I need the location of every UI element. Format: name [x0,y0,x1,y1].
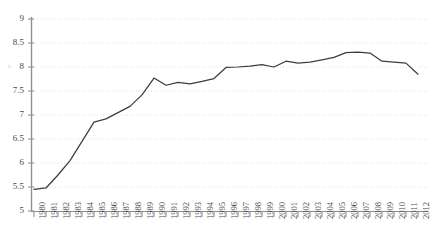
x-tick-label: 2010 [398,202,407,219]
x-tick-label: 1981 [50,202,59,219]
y-tick-label: 9 [0,14,24,23]
x-tick-label: 1998 [254,202,263,219]
x-tick-label: 1986 [110,202,119,219]
x-tick-label: 1980 [38,202,47,219]
x-tick-label: 1993 [194,202,203,219]
x-tick-label: 1992 [182,202,191,219]
x-tick-label: 1999 [266,202,275,219]
x-tick-label: 1996 [230,202,239,219]
x-tick-label: 2009 [386,202,395,219]
x-tick-label: 2001 [290,202,299,219]
gridlines [34,19,428,211]
x-tick-label: 1985 [98,202,107,219]
line-chart: 98.587.576.565.55 1980198119821983198419… [0,0,437,250]
x-tick-label: 1988 [134,202,143,219]
x-tick-label: 2002 [302,202,311,219]
x-tick-label: 2011 [410,202,419,219]
y-tick-label: 6 [0,158,24,167]
x-tick-label: 1983 [74,202,83,219]
x-tick-label: 1994 [206,202,215,219]
x-tick-label: 2006 [350,202,359,219]
y-tick-label: 6.5 [0,134,24,143]
x-tick-label: 1990 [158,202,167,219]
x-tick-label: 1991 [170,202,179,219]
x-tick-label: 1997 [242,202,251,219]
x-tick-label: 2004 [326,202,335,219]
x-tick-label: 2000 [278,202,287,219]
data-line-series-1 [34,52,418,189]
y-tick-label: 5 [0,206,24,215]
y-tick-label: 7.5 [0,86,24,95]
x-tick-label: 2012 [422,202,431,219]
x-tick-label: 2005 [338,202,347,219]
x-tick-label: 1989 [146,202,155,219]
x-tick-label: 1987 [122,202,131,219]
x-tick-label: 1982 [62,202,71,219]
y-tick-label: 5.5 [0,182,24,191]
x-tick-label: 2007 [362,202,371,219]
x-tick-label: 1984 [86,202,95,219]
x-tick-label: 2003 [314,202,323,219]
x-tick-label: 2008 [374,202,383,219]
x-tick-label: 1995 [218,202,227,219]
y-tick-label: 7 [0,110,24,119]
y-tick-label: 8 [0,62,24,71]
y-tick-label: 8.5 [0,38,24,47]
